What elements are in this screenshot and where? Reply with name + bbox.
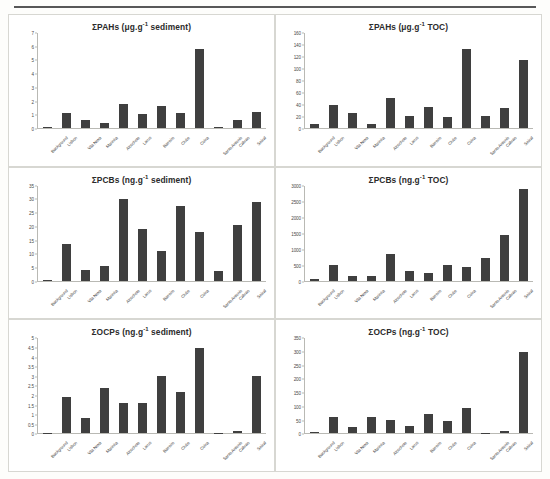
x-axis-line	[304, 433, 533, 434]
bar[interactable]	[62, 113, 72, 128]
x-label-slot: Lisbon	[324, 130, 343, 164]
bar[interactable]	[252, 112, 262, 128]
plot-area-ocps_sediment: 00.511.522.533.544.55BackgroundLisbonVil…	[15, 338, 268, 434]
bar[interactable]	[119, 199, 129, 280]
bar[interactable]	[119, 104, 129, 128]
bar[interactable]	[348, 427, 358, 434]
bar[interactable]	[310, 432, 320, 433]
bar[interactable]	[405, 271, 415, 281]
x-tick-label: Seixal	[255, 441, 266, 452]
bar[interactable]	[100, 266, 110, 281]
x-axis-labels-ocps_sediment: BackgroundLisbonVila NovaMarinhaAlcochet…	[38, 435, 266, 469]
bar[interactable]	[157, 376, 167, 433]
bar[interactable]	[233, 225, 243, 281]
y-tick-label: 1	[32, 113, 34, 118]
bar-slot	[419, 33, 438, 128]
bar[interactable]	[443, 265, 453, 281]
bar[interactable]	[481, 433, 491, 434]
x-axis-line	[37, 128, 266, 129]
bar-slot	[247, 33, 266, 128]
bar[interactable]	[367, 417, 377, 434]
bar-slot	[228, 338, 247, 433]
bar[interactable]	[405, 116, 415, 128]
bar[interactable]	[443, 117, 453, 128]
bar[interactable]	[500, 431, 510, 434]
bar[interactable]	[195, 348, 205, 434]
bar[interactable]	[233, 120, 243, 128]
bar[interactable]	[348, 113, 358, 128]
bar[interactable]	[462, 267, 472, 281]
bar[interactable]	[233, 431, 243, 433]
bar[interactable]	[81, 270, 91, 281]
bar[interactable]	[195, 232, 205, 281]
bar[interactable]	[176, 113, 186, 128]
bar[interactable]	[119, 403, 129, 433]
bar[interactable]	[348, 276, 358, 281]
bar[interactable]	[100, 388, 110, 434]
bar[interactable]	[481, 258, 491, 281]
bar[interactable]	[386, 254, 396, 281]
bar-slot	[476, 338, 495, 433]
bar[interactable]	[424, 107, 434, 128]
bar[interactable]	[519, 60, 529, 128]
bar-slot	[76, 338, 95, 433]
bar[interactable]	[462, 408, 472, 433]
bar[interactable]	[81, 418, 91, 433]
x-label-slot: Vila Nova	[76, 130, 95, 164]
bar[interactable]	[500, 108, 510, 128]
x-label-slot: Santo Antonio	[476, 435, 495, 469]
bar[interactable]	[43, 127, 53, 128]
bar[interactable]	[329, 417, 339, 434]
bar[interactable]	[214, 127, 224, 128]
bar[interactable]	[462, 49, 472, 128]
bar[interactable]	[481, 116, 491, 128]
bar[interactable]	[43, 280, 53, 281]
bar-slot	[457, 338, 476, 433]
y-tick-label: 0	[299, 127, 301, 132]
bar[interactable]	[367, 124, 377, 128]
bar[interactable]	[367, 276, 377, 281]
bar-slot	[400, 338, 419, 433]
bar[interactable]	[310, 124, 320, 128]
bar[interactable]	[138, 403, 148, 433]
bar-slot	[38, 186, 57, 281]
bar[interactable]	[138, 114, 148, 128]
bar[interactable]	[386, 98, 396, 128]
bar[interactable]	[214, 271, 224, 281]
bar-slot	[476, 33, 495, 128]
bar[interactable]	[195, 49, 205, 128]
bar[interactable]	[424, 273, 434, 280]
bar[interactable]	[443, 421, 453, 433]
bar[interactable]	[100, 123, 110, 128]
chart-title-tail: sediment)	[149, 327, 192, 337]
x-label-slot: Clube	[438, 283, 457, 317]
bar[interactable]	[62, 244, 72, 281]
x-tick-label: Seixal	[255, 135, 266, 146]
chart-title-tail: sediment)	[148, 22, 191, 32]
bar[interactable]	[519, 352, 529, 433]
bar[interactable]	[43, 433, 53, 434]
bar[interactable]	[329, 265, 339, 281]
bar[interactable]	[329, 105, 339, 128]
bar[interactable]	[405, 426, 415, 433]
x-label-slot: Cabrao	[495, 283, 514, 317]
bar[interactable]	[176, 392, 186, 434]
bar[interactable]	[519, 189, 529, 281]
bar[interactable]	[62, 397, 72, 433]
bar[interactable]	[310, 279, 320, 281]
bar[interactable]	[157, 251, 167, 281]
bar-slot	[152, 186, 171, 281]
bar[interactable]	[386, 420, 396, 433]
bar[interactable]	[252, 376, 262, 433]
bar[interactable]	[500, 235, 510, 281]
bar[interactable]	[81, 120, 91, 128]
bar[interactable]	[138, 229, 148, 281]
x-label-slot: Seixal	[247, 283, 266, 317]
bar-slot	[324, 338, 343, 433]
bar[interactable]	[214, 433, 224, 434]
bar[interactable]	[176, 206, 186, 281]
bar[interactable]	[157, 106, 167, 128]
bar[interactable]	[252, 202, 262, 281]
x-label-slot: Lisbon	[324, 283, 343, 317]
bar[interactable]	[424, 414, 434, 434]
